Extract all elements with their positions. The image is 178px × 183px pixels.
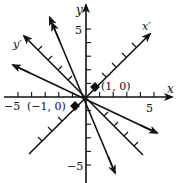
point-neg1-0: [70, 101, 80, 111]
y-prime-axis: [24, 36, 143, 155]
x-axis-label: x: [167, 82, 174, 96]
x-prime-label: x′: [142, 20, 151, 33]
steep-line-upper-arrow: [52, 23, 60, 42]
x-prime-axis: [29, 34, 150, 154]
y-tick-label-neg5: −5: [67, 160, 83, 173]
x-tick-label-5: 5: [146, 102, 153, 115]
steep-line-lower-arrow: [108, 156, 115, 173]
y-prime-label: y′: [12, 38, 22, 51]
y-axis-label: y: [75, 3, 83, 17]
point-label-1-0: (1, 0): [101, 80, 131, 93]
x-tick-label-neg5: −5: [4, 100, 20, 113]
point-1-0: [90, 82, 100, 92]
y-tick-label-5: 5: [75, 24, 82, 37]
shallow-line: [13, 65, 157, 133]
diagram-canvas: y x x′ y′ −5 5 5 −5 (1, 0) (−1, 0): [0, 0, 178, 183]
shallow-line-left-arrow: [13, 65, 30, 73]
shallow-line-right-arrow: [140, 125, 157, 133]
point-label-neg1-0: (−1, 0): [27, 100, 66, 113]
